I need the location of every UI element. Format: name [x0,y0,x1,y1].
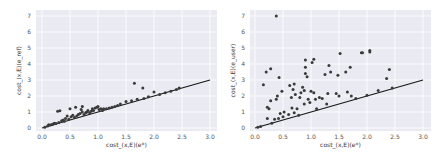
data-point [349,66,352,69]
data-point [133,82,136,85]
data-point [277,117,280,120]
y-tick-label: 4 [241,60,245,67]
data-point [304,72,307,75]
data-point [326,92,329,95]
data-point [273,118,276,121]
y-tick-label: 2 [27,92,31,99]
x-tick-label: 2.5 [390,133,400,140]
data-point [164,91,167,94]
data-point [297,114,300,117]
data-point [97,105,100,108]
y-tick-label: 0 [27,124,31,131]
right-scatter-plot: 0.00.51.01.52.02.53.001234567cost_(x,E)(… [223,0,446,156]
data-point [81,105,84,108]
data-point [276,95,279,98]
data-point [339,52,342,55]
data-point [74,106,77,109]
y-tick-label: 3 [241,76,245,83]
y-tick-label: 7 [27,12,31,19]
data-point [69,107,72,110]
x-tick-label: 0.0 [250,133,260,140]
data-point [67,118,70,121]
data-point [327,64,330,67]
data-point [368,51,371,54]
data-point [262,83,265,86]
data-point [377,89,380,92]
data-point [288,84,291,87]
data-point [298,96,301,99]
data-point [63,120,66,123]
data-point [366,94,369,97]
data-point [325,103,328,106]
data-point [303,89,306,92]
x-tick-label: 0.0 [37,133,47,140]
data-point [175,88,178,91]
data-point [346,91,349,94]
data-point [279,112,282,115]
y-axis-label: cost_(x,E)(e_user) [229,44,237,98]
data-point [307,98,310,101]
data-point [265,71,268,74]
x-tick-label: 2.5 [177,133,187,140]
data-point [315,107,318,110]
data-point [290,107,293,110]
y-tick-label: 5 [27,44,31,51]
y-axis-label: cost_(x,E)(e_ref) [15,46,23,95]
data-point [270,122,273,125]
y-tick-label: 0 [241,124,245,131]
data-point [321,97,324,100]
x-tick-label: 0.5 [65,133,75,140]
data-point [293,111,296,114]
data-point [278,76,281,79]
x-tick-label: 2.0 [149,133,159,140]
data-point [293,83,296,86]
data-point [102,107,105,110]
data-point [105,107,108,110]
data-point [57,121,60,124]
data-point [314,98,317,101]
data-point [268,107,271,110]
data-point [116,104,119,107]
data-point [136,98,139,101]
data-point [158,93,161,96]
plot-background [36,10,217,131]
data-point [336,74,339,77]
data-point [338,95,341,98]
data-point [130,99,133,102]
data-point [282,115,285,118]
data-point [275,98,278,101]
data-point [344,71,347,74]
data-point [311,61,314,64]
data-point [283,111,286,114]
data-point [335,92,338,95]
y-tick-label: 2 [241,92,245,99]
data-point [169,90,172,93]
data-point [108,107,111,110]
data-point [303,103,306,106]
x-axis-label: cost_(x,E)(e*) [320,141,361,149]
x-tick-label: 3.0 [418,133,428,140]
data-point [147,95,150,98]
y-tick-label: 6 [27,28,31,35]
data-point [141,87,144,90]
x-tick-label: 0.5 [278,133,288,140]
left-scatter-plot: 0.00.51.01.52.02.53.001234567cost_(x,E)(… [0,0,223,156]
data-point [111,106,114,109]
data-point [280,90,283,93]
data-point [329,71,332,74]
data-point [296,107,299,110]
data-point [299,91,302,94]
data-point [350,95,353,98]
data-point [58,109,61,112]
data-point [256,126,259,129]
y-tick-label: 1 [27,108,31,115]
x-tick-label: 1.5 [334,133,344,140]
y-tick-label: 5 [241,44,245,51]
data-point [55,122,58,125]
data-point [292,88,295,91]
data-point [385,77,388,80]
left-chart-svg: 0.00.51.01.52.02.53.001234567cost_(x,E)(… [0,0,223,156]
data-point [43,126,46,129]
data-point [312,91,315,94]
data-point [259,125,262,128]
